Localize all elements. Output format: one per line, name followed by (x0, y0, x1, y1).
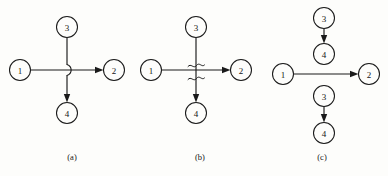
node-label: 2 (239, 66, 244, 76)
arrowhead-down-icon (64, 94, 70, 103)
diagram-svg: 1 2 3 4 (a) (0, 0, 388, 176)
panel-c-node-1[interactable]: 1 (273, 64, 294, 85)
arrowhead-down-icon (193, 94, 199, 103)
panel-c-node-2[interactable]: 2 (359, 64, 380, 85)
panel-a-caption: (a) (67, 152, 77, 162)
panel-a-node-1[interactable]: 1 (10, 60, 31, 81)
node-label: 4 (322, 129, 327, 139)
panel-c-node-4-bottom[interactable]: 4 (314, 123, 335, 144)
arrowhead-down-icon (321, 35, 327, 44)
node-label: 2 (112, 66, 117, 76)
node-label: 1 (281, 70, 286, 80)
panel-b-node-2[interactable]: 2 (231, 60, 252, 81)
panel-b-node-1[interactable]: 1 (141, 60, 162, 81)
panel-c-edge-3-to-4-bottom (321, 107, 327, 123)
node-label: 4 (322, 50, 327, 60)
node-label: 1 (149, 66, 154, 76)
node-label: 4 (194, 109, 199, 119)
panel-c-edge-3-to-4-top (321, 29, 327, 44)
arrowhead-down-icon (321, 114, 327, 123)
node-label: 3 (322, 14, 327, 24)
panel-c-edge-1-to-2 (294, 71, 359, 77)
panel-c-node-3-bottom[interactable]: 3 (314, 86, 335, 107)
arrowhead-right-icon (95, 67, 104, 73)
panel-c: 3 4 1 2 3 4 (c) (273, 8, 380, 163)
arrowhead-right-icon (222, 67, 231, 73)
node-label: 4 (65, 109, 70, 119)
panel-a-node-4[interactable]: 4 (57, 103, 78, 124)
node-label: 2 (367, 70, 372, 80)
node-label: 1 (18, 66, 23, 76)
panel-a-edge-1-to-2 (31, 67, 104, 73)
node-label: 3 (194, 23, 199, 33)
arrowhead-right-icon (350, 71, 359, 77)
node-label: 3 (65, 23, 70, 33)
panel-a-node-2[interactable]: 2 (104, 60, 125, 81)
panel-b-caption: (b) (195, 152, 205, 162)
panel-a-node-3[interactable]: 3 (57, 17, 78, 38)
panel-c-node-3-top[interactable]: 3 (314, 8, 335, 29)
panel-c-node-4-top[interactable]: 4 (314, 44, 335, 65)
figure-canvas: 1 2 3 4 (a) (0, 0, 388, 176)
panel-b: 1 2 3 4 (b) (141, 17, 252, 163)
panel-b-node-4[interactable]: 4 (186, 103, 207, 124)
panel-a: 1 2 3 4 (a) (10, 17, 125, 163)
panel-b-node-3[interactable]: 3 (186, 17, 207, 38)
node-label: 3 (322, 92, 327, 102)
panel-c-caption: (c) (317, 152, 327, 162)
